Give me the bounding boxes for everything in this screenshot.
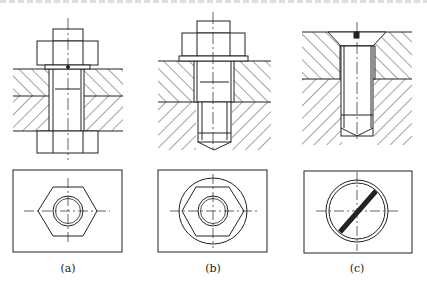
- caption-b: (b): [193, 262, 233, 275]
- panel-c-plan: [304, 171, 412, 253]
- panel-a-plan: [13, 170, 122, 252]
- panel-a-section: [13, 18, 123, 160]
- technical-drawing: [0, 0, 427, 287]
- caption-a: (a): [48, 262, 88, 275]
- panel-b-section: [158, 12, 271, 152]
- caption-c: (c): [337, 262, 377, 275]
- panel-b-plan: [158, 170, 267, 252]
- panel-c-section: [302, 22, 412, 145]
